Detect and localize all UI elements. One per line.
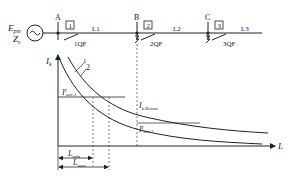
impedance-label: Zs — [13, 34, 21, 45]
curve-2-label: 2 — [86, 63, 90, 72]
lmax-label: Lmax — [72, 158, 87, 168]
bus-a: A 1 1QF L1 — [55, 13, 100, 48]
svg-text:C: C — [205, 13, 210, 22]
iact2-label: IIact.2 — [138, 125, 154, 134]
svg-text:L3: L3 — [241, 25, 249, 33]
svg-text:2: 2 — [147, 22, 151, 30]
svg-text:L2: L2 — [173, 25, 181, 33]
svg-text:1: 1 — [69, 22, 73, 30]
svg-text:3QF: 3QF — [223, 40, 236, 48]
svg-text:3: 3 — [218, 22, 222, 30]
ikbmax-label: Ik.B.max — [138, 101, 159, 111]
bus-c: C 3 3QF L3 — [205, 13, 249, 48]
svg-text:L1: L1 — [92, 25, 100, 33]
svg-text:2QF: 2QF — [150, 40, 163, 48]
x-axis-label: L — [277, 141, 283, 151]
curve-1 — [60, 60, 262, 144]
protection-coordination-diagram: Epm Zs A 1 1QF L1 B 2 2QF L2 C 3 3QF L3 — [0, 0, 288, 180]
ac-source-icon — [27, 25, 43, 41]
svg-text:A: A — [55, 13, 61, 22]
bus-b: B 2 2QF L2 — [134, 13, 181, 48]
emf-label: Epm — [7, 23, 22, 34]
y-axis-label: Ik — [45, 56, 52, 67]
curve-2 — [68, 57, 268, 133]
svg-text:1QF: 1QF — [74, 40, 87, 48]
iact1-label: IIact.1 — [61, 88, 76, 97]
svg-text:B: B — [134, 13, 139, 22]
